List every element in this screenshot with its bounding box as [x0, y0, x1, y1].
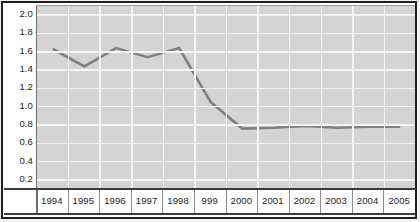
x-axis-tick-separator — [194, 190, 195, 213]
y-axis-tick-label: 0.2 — [3, 174, 33, 184]
line-chart-figure: 2.01.81.61.41.21.00.80.60.40.2 199419951… — [0, 0, 420, 222]
x-axis-tick-separator — [99, 190, 100, 213]
gridline-vertical — [257, 6, 259, 188]
x-axis-tick-separator — [383, 190, 384, 213]
gridline-vertical — [384, 6, 386, 188]
gridline-vertical — [163, 6, 165, 188]
x-axis-tick-separator — [131, 190, 132, 213]
x-axis-tick-label: 1995 — [68, 195, 100, 206]
y-axis-tick-labels: 2.01.81.61.41.21.00.80.60.40.2 — [0, 5, 33, 188]
x-axis-tick-label: 1998 — [162, 195, 194, 206]
x-axis-bottom-rule — [4, 213, 416, 215]
x-axis-tick-separator — [320, 190, 321, 213]
x-axis-tick-separator — [162, 190, 163, 213]
x-axis-tick-label: 2005 — [383, 195, 415, 206]
x-axis-tick-label: 1994 — [36, 195, 68, 206]
gridline-vertical — [226, 6, 228, 188]
gridline-vertical — [131, 6, 133, 188]
gridline-vertical — [289, 6, 291, 188]
x-axis-tick-separator — [257, 190, 258, 213]
x-axis-tick-label: 2000 — [226, 195, 258, 206]
x-axis-tick-label: 2001 — [257, 195, 289, 206]
y-axis-tick-label: 0.4 — [3, 156, 33, 166]
x-axis-tick-label: 999 — [194, 195, 226, 206]
gridline-vertical — [99, 6, 101, 188]
y-axis-tick-label: 1.0 — [3, 101, 33, 111]
plot-area — [36, 5, 415, 188]
x-axis-tick-label: 2002 — [289, 195, 321, 206]
y-axis-tick-label: 1.8 — [3, 27, 33, 37]
y-axis-tick-label: 0.6 — [3, 137, 33, 147]
x-axis-tick-separator — [352, 190, 353, 213]
y-axis-tick-label: 1.2 — [3, 82, 33, 92]
y-axis-tick-label: 0.8 — [3, 119, 33, 129]
gridline-vertical — [68, 6, 70, 188]
y-axis-tick-label: 2.0 — [3, 9, 33, 19]
y-axis-tick-label: 1.4 — [3, 64, 33, 74]
x-axis-tick-label: 1997 — [131, 195, 163, 206]
x-axis-tick-label: 1996 — [99, 195, 131, 206]
x-axis-tick-labels: 1994199519961997199899920002001200220032… — [36, 190, 415, 213]
x-axis-tick-label: 2004 — [352, 195, 384, 206]
gridline-vertical — [194, 6, 196, 188]
x-axis-tick-label: 2003 — [320, 195, 352, 206]
y-axis-tick-label: 1.6 — [3, 46, 33, 56]
gridline-vertical — [321, 6, 323, 188]
x-axis-tick-separator — [68, 190, 69, 213]
gridline-vertical — [352, 6, 354, 188]
x-axis-tick-separator — [289, 190, 290, 213]
x-axis-tick-separator — [226, 190, 227, 213]
